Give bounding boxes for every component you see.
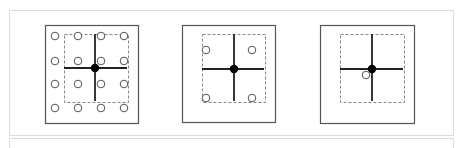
sample-circle-icon bbox=[120, 57, 128, 65]
panel-1 bbox=[46, 26, 139, 124]
sample-circle-icon bbox=[362, 71, 370, 79]
receptive-field-diagram bbox=[0, 0, 463, 148]
sample-circle-icon bbox=[74, 57, 82, 65]
sample-circle-icon bbox=[120, 104, 128, 112]
sample-circle-icon bbox=[248, 94, 256, 102]
sample-circle-icon bbox=[97, 104, 105, 112]
sample-circle-icon bbox=[74, 104, 82, 112]
center-dot-icon bbox=[230, 65, 238, 73]
sample-circle-icon bbox=[97, 32, 105, 40]
sample-circle-icon bbox=[51, 104, 59, 112]
sample-circle-icon bbox=[51, 80, 59, 88]
center-dot-icon bbox=[368, 65, 376, 73]
sample-circle-icon bbox=[248, 46, 256, 54]
sample-circle-icon bbox=[97, 57, 105, 65]
sample-circle-icon bbox=[202, 46, 210, 54]
sample-circle-icon bbox=[51, 32, 59, 40]
panel-3 bbox=[321, 26, 415, 124]
sample-circle-icon bbox=[74, 32, 82, 40]
sample-circle-icon bbox=[74, 80, 82, 88]
panel-2 bbox=[183, 26, 276, 123]
sample-circle-icon bbox=[120, 32, 128, 40]
sample-circle-icon bbox=[51, 57, 59, 65]
outer-square bbox=[183, 26, 276, 123]
sample-circle-icon bbox=[97, 80, 105, 88]
center-dot-icon bbox=[91, 64, 99, 72]
sample-circle-icon bbox=[120, 80, 128, 88]
sample-circle-icon bbox=[202, 94, 210, 102]
